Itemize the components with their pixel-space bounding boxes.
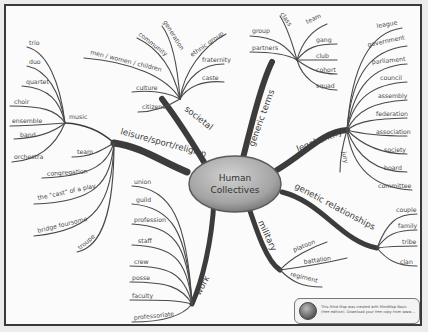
center-node[interactable]: Human Collectives bbox=[189, 156, 281, 212]
svg-text:duo: duo bbox=[29, 58, 41, 65]
svg-text:ensemble: ensemble bbox=[12, 117, 42, 124]
branch-legal-entity[interactable]: legal entity bbox=[295, 126, 344, 153]
svg-text:faculty: faculty bbox=[132, 292, 153, 300]
svg-text:regiment: regiment bbox=[290, 270, 320, 285]
footer-text[interactable]: This Mind Map was created with MindMap B… bbox=[321, 305, 416, 315]
svg-text:community: community bbox=[137, 30, 170, 58]
center-title-line2: Collectives bbox=[211, 185, 260, 195]
svg-text:quartet: quartet bbox=[26, 78, 49, 86]
svg-text:squad: squad bbox=[316, 82, 335, 90]
svg-text:trio: trio bbox=[29, 39, 40, 46]
svg-text:culture: culture bbox=[136, 84, 158, 91]
branch-music[interactable]: music bbox=[69, 113, 88, 120]
military-labels: platoon battalion regiment bbox=[290, 238, 332, 285]
branch-music-line bbox=[65, 123, 114, 143]
svg-text:choir: choir bbox=[14, 98, 30, 105]
svg-text:orchestra: orchestra bbox=[14, 153, 44, 160]
svg-text:clan: clan bbox=[400, 258, 413, 265]
svg-text:generation: generation bbox=[161, 19, 186, 52]
music-labels: trio duo quartet choir ensemble band orc… bbox=[12, 39, 49, 160]
svg-text:battalion: battalion bbox=[303, 254, 331, 265]
svg-text:cohort: cohort bbox=[316, 66, 336, 73]
svg-text:committee: committee bbox=[378, 182, 412, 189]
svg-text:board: board bbox=[384, 164, 402, 171]
svg-text:assembly: assembly bbox=[378, 92, 408, 100]
mind-map-canvas: Human Collectives societal generic terms… bbox=[4, 4, 422, 326]
svg-text:crew: crew bbox=[134, 258, 149, 265]
work-leaves bbox=[130, 186, 192, 322]
svg-text:partners: partners bbox=[252, 44, 278, 52]
svg-text:bridge foursome: bridge foursome bbox=[37, 215, 89, 235]
svg-text:league: league bbox=[376, 18, 398, 30]
svg-text:team: team bbox=[77, 148, 93, 155]
svg-text:guild: guild bbox=[136, 196, 151, 204]
leisure-labels: team congregation the "cast" of a play b… bbox=[37, 148, 97, 252]
svg-text:family: family bbox=[398, 222, 417, 230]
svg-text:fraternity: fraternity bbox=[202, 56, 231, 64]
svg-text:staff: staff bbox=[138, 237, 152, 244]
svg-text:group: group bbox=[252, 27, 270, 35]
branch-societal[interactable]: societal bbox=[183, 104, 215, 132]
footer-credit: This Mind Map was created with MindMap B… bbox=[294, 298, 420, 324]
svg-text:the "cast" of a play: the "cast" of a play bbox=[37, 182, 97, 202]
svg-text:ethnic group: ethnic group bbox=[189, 30, 226, 59]
svg-text:posse: posse bbox=[132, 274, 150, 282]
svg-text:profession: profession bbox=[134, 216, 166, 224]
svg-text:band: band bbox=[20, 131, 36, 138]
svg-text:professoriate: professoriate bbox=[133, 310, 174, 322]
app-logo-icon bbox=[299, 302, 317, 320]
svg-text:federation: federation bbox=[376, 110, 408, 117]
svg-text:council: council bbox=[380, 74, 402, 81]
center-title-line1: Human bbox=[219, 173, 251, 183]
svg-text:gang: gang bbox=[316, 36, 332, 44]
svg-text:caste: caste bbox=[202, 74, 219, 81]
svg-text:tribe: tribe bbox=[402, 238, 417, 245]
branch-work[interactable]: work bbox=[193, 274, 212, 297]
svg-text:union: union bbox=[134, 178, 151, 185]
svg-text:couple: couple bbox=[396, 206, 417, 214]
svg-text:team: team bbox=[304, 12, 322, 25]
svg-text:congregation: congregation bbox=[47, 167, 88, 178]
svg-text:club: club bbox=[316, 52, 329, 59]
societal-labels: generation community ethnic group men / … bbox=[90, 19, 231, 110]
svg-text:society: society bbox=[384, 146, 406, 154]
mind-map: Human Collectives societal generic terms… bbox=[6, 6, 422, 326]
svg-text:association: association bbox=[376, 128, 411, 135]
svg-text:citizens: citizens bbox=[142, 103, 165, 110]
